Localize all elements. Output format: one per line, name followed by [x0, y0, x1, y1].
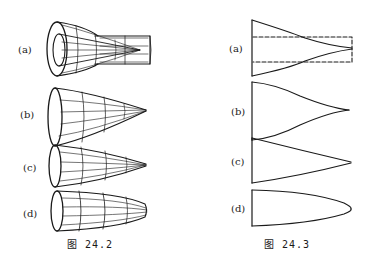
fig24-3-label-b: (b)	[231, 106, 245, 117]
fig24-2-label-c: (c)	[23, 162, 36, 173]
fig24-3-c-profile	[252, 138, 351, 183]
fig24-3-label-d: (d)	[231, 203, 245, 214]
fig24-3-d-profile	[252, 190, 351, 226]
fig24-2-c-cone	[49, 145, 146, 187]
fig24-2-d-ogive	[51, 191, 147, 231]
fig24-2-b-cone	[48, 88, 146, 146]
fig24-3-label-c: (c)	[231, 156, 244, 167]
fig24-3-label-a: (a)	[229, 43, 243, 54]
fig24-2-label-b: (b)	[20, 109, 34, 120]
diagram-canvas	[0, 0, 374, 263]
fig24-2-label-a: (a)	[18, 44, 32, 55]
fig24-2-caption: 图 24.2	[67, 236, 113, 251]
fig24-2-a-cone-cylinder	[47, 22, 151, 76]
fig24-3-caption: 图 24.3	[264, 236, 310, 251]
fig24-3-b-profile	[252, 82, 349, 140]
fig24-2-label-d: (d)	[23, 208, 37, 219]
fig24-3-a-profile	[252, 20, 352, 76]
